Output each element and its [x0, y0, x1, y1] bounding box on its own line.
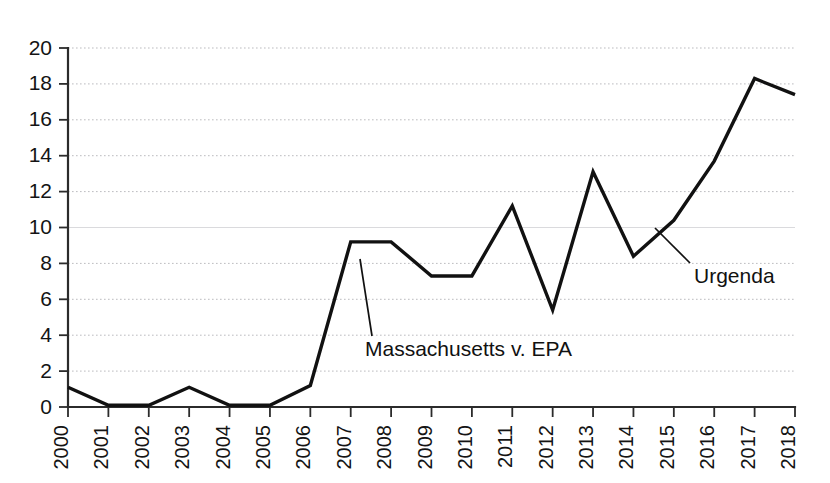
y-tick-label-14: 14: [29, 143, 53, 166]
line-chart: 02468101214161820 2000200120022003200420…: [0, 0, 830, 483]
x-axis: [68, 407, 795, 417]
annotation-leader-massachusetts-v-epa: [360, 259, 372, 336]
annotation-label-massachusetts-v-epa: Massachusetts v. EPA: [365, 337, 572, 360]
y-tick-label-10: 10: [29, 215, 52, 238]
x-tick-label-2006: 2006: [292, 425, 314, 470]
x-tick-label-2001: 2001: [90, 425, 112, 470]
x-tick-label-2015: 2015: [656, 425, 678, 470]
x-tick-label-2002: 2002: [131, 425, 153, 470]
x-tick-label-2003: 2003: [171, 425, 193, 470]
y-tick-label-20: 20: [29, 36, 52, 59]
y-tick-label-6: 6: [40, 287, 52, 310]
y-axis: [59, 48, 68, 407]
x-tick-label-2017: 2017: [737, 425, 759, 470]
x-tick-label-2007: 2007: [333, 425, 355, 470]
y-tick-labels: 02468101214161820: [29, 36, 53, 418]
y-tick-label-18: 18: [29, 71, 52, 94]
x-tick-label-2016: 2016: [696, 425, 718, 470]
x-tick-label-2010: 2010: [454, 425, 476, 470]
y-tick-label-12: 12: [29, 179, 52, 202]
x-tick-label-2005: 2005: [252, 425, 274, 470]
x-tick-labels: 2000200120022003200420052006200720082009…: [50, 425, 799, 470]
x-tick-label-2008: 2008: [373, 425, 395, 470]
x-tick-label-2018: 2018: [777, 425, 799, 470]
y-tick-label-8: 8: [40, 251, 52, 274]
y-tick-label-4: 4: [40, 323, 52, 346]
y-tick-label-0: 0: [40, 395, 52, 418]
y-tick-label-2: 2: [40, 359, 52, 382]
x-tick-label-2013: 2013: [575, 425, 597, 470]
annotations-group: Massachusetts v. EPAUrgenda: [360, 228, 775, 360]
x-tick-label-2000: 2000: [50, 425, 72, 470]
x-tick-label-2009: 2009: [414, 425, 436, 470]
annotation-leader-urgenda: [655, 228, 690, 263]
x-tick-label-2014: 2014: [615, 425, 637, 470]
y-tick-label-16: 16: [29, 107, 52, 130]
x-tick-label-2004: 2004: [212, 425, 234, 470]
annotation-label-urgenda: Urgenda: [694, 264, 775, 287]
chart-container: 02468101214161820 2000200120022003200420…: [0, 0, 830, 483]
x-tick-label-2012: 2012: [535, 425, 557, 470]
x-tick-label-2011: 2011: [494, 425, 516, 468]
